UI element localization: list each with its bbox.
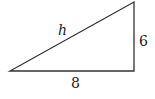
vertical-leg-label: 6 <box>139 33 148 49</box>
right-triangle-diagram: h 6 8 <box>0 0 155 99</box>
triangle-shape <box>10 2 134 71</box>
hypotenuse-label: h <box>58 22 67 38</box>
horizontal-leg-label: 8 <box>71 75 80 91</box>
